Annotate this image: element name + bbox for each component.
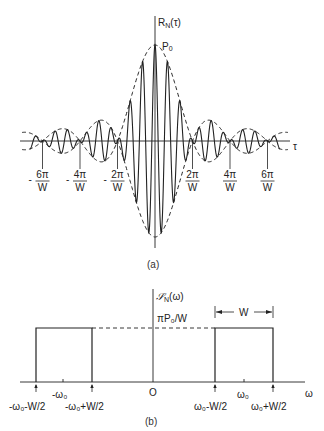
origin-label: O — [149, 387, 157, 398]
svg-text:-: - — [104, 174, 107, 185]
tau-axis-label: τ — [293, 141, 297, 152]
figure-b: W 𝒮N(ω) πP₀/W O ω -ω₀ ω₀ -ω₀-W/2 -ω₀+W/2… — [9, 289, 313, 427]
omega-axis-label: ω — [305, 388, 313, 399]
svg-text:4π: 4π — [224, 169, 237, 180]
tick-label: -6πW — [29, 169, 50, 193]
width-label: W — [239, 307, 249, 318]
svg-text:-: - — [66, 174, 69, 185]
tick-label: -4πW — [66, 169, 87, 193]
label-pos-omega0: ω₀ — [237, 389, 249, 400]
svg-text:W: W — [38, 182, 48, 193]
svg-text:4π: 4π — [74, 169, 87, 180]
caption-b: (b) — [145, 416, 157, 427]
svg-text:6π: 6π — [36, 169, 49, 180]
svg-text:W: W — [75, 182, 85, 193]
band-positive — [215, 328, 273, 382]
level-label: πP₀/W — [157, 313, 187, 324]
figure-canvas: -6πW-4πW-2πW2πW4πW6πW RN(τ) P0 τ (a) W — [0, 0, 324, 431]
band-negative — [36, 328, 92, 382]
label-edge-3: ω₀-W/2 — [194, 401, 228, 412]
label-neg-omega0: -ω₀ — [52, 389, 67, 400]
svg-text:2π: 2π — [111, 169, 124, 180]
tick-label: 4πW — [223, 169, 237, 193]
caption-a: (a) — [147, 259, 159, 270]
peak-label: P0 — [162, 41, 173, 52]
label-edge-1: -ω₀-W/2 — [9, 401, 46, 412]
svg-text:-: - — [29, 174, 32, 185]
label-edge-4: ω₀+W/2 — [251, 401, 287, 412]
svg-text:W: W — [263, 182, 273, 193]
svg-text:W: W — [113, 182, 123, 193]
svg-text:W: W — [225, 182, 235, 193]
svg-text:6π: 6π — [261, 169, 274, 180]
tick-label: 6πW — [261, 169, 275, 193]
tick-label: -2πW — [104, 169, 125, 193]
svg-text:W: W — [188, 182, 198, 193]
tick-label: 2πW — [186, 169, 200, 193]
label-edge-2: -ω₀+W/2 — [65, 401, 104, 412]
y-axis-label-a: RN(τ) — [158, 17, 181, 29]
svg-text:2π: 2π — [186, 169, 199, 180]
y-axis-label-b: 𝒮N(ω) — [156, 291, 184, 303]
figure-a: -6πW-4πW-2πW2πW4πW6πW RN(τ) P0 τ (a) — [20, 16, 297, 270]
